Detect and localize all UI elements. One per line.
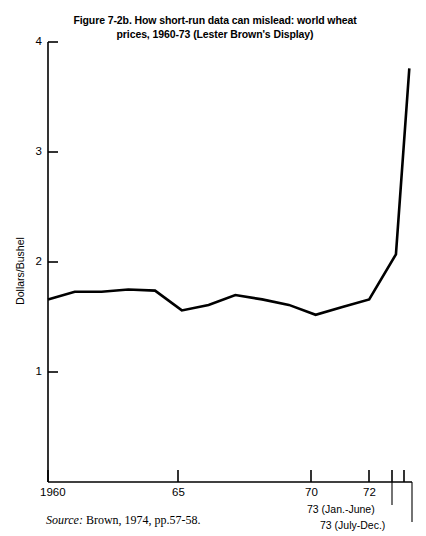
y-axis-title: Dollars/Bushel bbox=[14, 226, 26, 316]
source-label: Source: bbox=[46, 513, 83, 527]
source-note: Source: Brown, 1974, pp.57-58. bbox=[46, 513, 201, 528]
x-axis-ticks bbox=[48, 470, 404, 482]
figure-container: Figure 7-2b. How short-run data can misl… bbox=[0, 0, 426, 536]
x-label-73-jan-june: 73 (Jan.-June) bbox=[307, 503, 375, 515]
data-series-line bbox=[48, 68, 409, 314]
line-chart-plot bbox=[0, 0, 426, 536]
source-citation: Brown, 1974, pp.57-58. bbox=[83, 513, 201, 527]
y-tick-label-3: 3 bbox=[20, 145, 42, 157]
x-tick-label-70: 70 bbox=[305, 486, 318, 498]
x-tick-label-65: 65 bbox=[172, 486, 185, 498]
y-tick-label-1: 1 bbox=[20, 365, 42, 377]
y-tick-label-4: 4 bbox=[20, 35, 42, 47]
x-label-73-july-dec: 73 (July-Dec.) bbox=[320, 519, 385, 531]
period-leader-lines bbox=[392, 482, 412, 522]
x-tick-label-1960: 1960 bbox=[40, 486, 66, 498]
x-tick-label-72: 72 bbox=[363, 486, 376, 498]
y-axis-ticks bbox=[48, 42, 58, 372]
